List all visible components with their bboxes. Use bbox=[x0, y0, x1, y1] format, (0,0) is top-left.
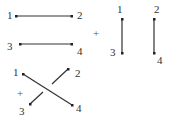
endpoint-1 bbox=[22, 73, 25, 76]
label-4: 4 bbox=[76, 102, 82, 114]
label-3: 3 bbox=[7, 40, 13, 52]
label-4: 4 bbox=[77, 45, 83, 57]
crossing-pair-diagram: 1 4 2 3 bbox=[13, 66, 82, 117]
label-3: 3 bbox=[19, 105, 25, 117]
endpoint-3 bbox=[121, 52, 124, 55]
segment-2-upper bbox=[52, 69, 68, 84]
label-2: 2 bbox=[154, 3, 160, 15]
segment-3-lower bbox=[30, 92, 43, 104]
label-2: 2 bbox=[75, 67, 81, 79]
endpoint-4 bbox=[71, 104, 74, 107]
endpoint-3 bbox=[19, 43, 22, 46]
endpoint-4 bbox=[153, 52, 156, 55]
label-1: 1 bbox=[13, 66, 19, 78]
segment-1-4 bbox=[23, 74, 72, 105]
diagram-canvas: 1 2 3 4 + 1 3 2 4 1 4 2 3 + bbox=[0, 0, 171, 120]
label-1: 1 bbox=[117, 3, 123, 15]
label-1: 1 bbox=[7, 9, 13, 21]
endpoint-4 bbox=[71, 43, 74, 46]
horizontal-pair-diagram: 1 2 3 4 bbox=[7, 9, 83, 57]
endpoint-1 bbox=[15, 15, 18, 18]
plus-operator-2: + bbox=[17, 87, 23, 99]
label-4: 4 bbox=[157, 54, 163, 66]
endpoint-2 bbox=[153, 18, 156, 21]
endpoint-2 bbox=[67, 68, 70, 71]
label-2: 2 bbox=[77, 9, 83, 21]
endpoint-3 bbox=[29, 103, 32, 106]
endpoint-2 bbox=[71, 15, 74, 18]
endpoint-1 bbox=[121, 18, 124, 21]
vertical-pair-diagram: 1 3 2 4 bbox=[110, 3, 163, 66]
label-3: 3 bbox=[110, 46, 116, 58]
plus-operator-1: + bbox=[93, 27, 99, 39]
